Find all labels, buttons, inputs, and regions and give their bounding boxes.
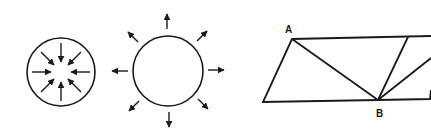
implosion-figure [27, 38, 95, 106]
outer-circle [133, 36, 203, 106]
label-a: A [285, 24, 292, 35]
inward-arrows [32, 43, 90, 101]
segment-a-b [292, 39, 378, 100]
parallelogram-outline [263, 36, 431, 102]
segment-b-right [378, 58, 431, 100]
label-b: B [376, 108, 383, 119]
outward-arrows [112, 14, 224, 127]
explosion-figure [112, 14, 224, 127]
diagram-canvas: A B [0, 0, 431, 134]
segment-b-top [378, 37, 408, 100]
parallelogram-figure [263, 36, 431, 102]
